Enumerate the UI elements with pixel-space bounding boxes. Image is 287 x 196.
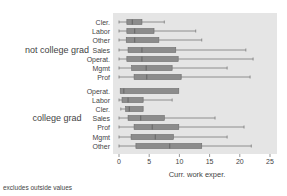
category-label: Labor [92,28,111,35]
category-label: Prof [97,124,110,131]
x-tick-label: 10 [176,158,184,165]
category-label: Cler. [96,19,110,26]
category-label: Labor [92,97,111,104]
category-label: Mgmt [93,65,111,73]
category-labels: Cler.LaborOtherSalesOperat.MgmtProfOpera… [87,19,111,150]
chart-note: excludes outside values [3,184,73,191]
category-label: Sales [92,115,110,122]
category-label: Prof [97,74,110,81]
category-label: Other [92,143,110,150]
x-tick-label: 5 [147,158,151,165]
category-label: Operat. [87,88,110,96]
category-label: Sales [92,47,110,54]
group-labels: not college gradcollege grad [25,45,89,123]
x-axis: 0510152025 [117,154,274,165]
category-label: Operat. [87,56,110,64]
x-tick-label: 20 [236,158,244,165]
x-tick-label: 0 [117,158,121,165]
group-label: not college grad [25,45,89,55]
x-tick-label: 25 [266,158,274,165]
x-axis-title: Curr. work exper. [169,170,226,179]
group-label: college grad [32,113,81,123]
x-tick-label: 15 [206,158,214,165]
box-plot-chart: Cler.LaborOtherSalesOperat.MgmtProfOpera… [0,0,287,196]
plot-area [113,13,277,154]
box-operat [120,89,179,94]
category-label: Mgmt [93,134,111,142]
category-label: Cler. [96,106,110,113]
category-label: Other [92,37,110,44]
